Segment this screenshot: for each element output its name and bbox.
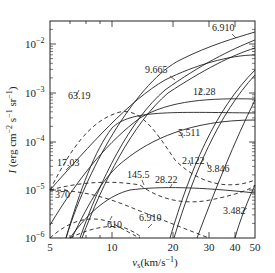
svg-text:10−4: 10−4 (25, 134, 45, 148)
svg-text:12.28: 12.28 (193, 86, 216, 97)
svg-text:63.19: 63.19 (68, 90, 91, 101)
svg-text:610: 610 (107, 219, 122, 230)
svg-text:28.22: 28.22 (155, 174, 178, 185)
svg-text:10−5: 10−5 (25, 182, 45, 196)
x-axis-label: vs(km/s−1) (132, 255, 178, 270)
line-chart: 5 10 20 30 40 50 10−6 10−5 10−4 10−3 10−… (0, 0, 275, 273)
svg-text:9.665: 9.665 (145, 64, 168, 75)
svg-text:2.122: 2.122 (182, 155, 205, 166)
y-axis-label: I (erg cm−2 s−1 sr−1) (5, 86, 19, 174)
svg-text:40: 40 (230, 241, 242, 253)
svg-text:370: 370 (55, 189, 70, 200)
svg-text:30: 30 (204, 241, 216, 253)
svg-text:10: 10 (107, 241, 119, 253)
svg-text:17.03: 17.03 (57, 157, 80, 168)
svg-text:10−6: 10−6 (25, 230, 45, 244)
svg-text:10−2: 10−2 (25, 36, 45, 50)
svg-text:3.482: 3.482 (223, 205, 246, 216)
svg-text:3.846: 3.846 (207, 163, 230, 174)
svg-text:6.910: 6.910 (139, 212, 162, 223)
y-tick-labels: 10−6 10−5 10−4 10−3 10−2 (25, 36, 45, 244)
x-tick-labels: 5 10 20 30 40 50 (47, 241, 261, 253)
svg-text:50: 50 (250, 241, 262, 253)
svg-text:6.910: 6.910 (212, 22, 235, 33)
svg-text:5.511: 5.511 (178, 127, 200, 138)
svg-text:145.5: 145.5 (127, 169, 150, 180)
svg-text:5: 5 (47, 241, 53, 253)
svg-text:10−3: 10−3 (25, 85, 45, 99)
svg-text:20: 20 (168, 241, 180, 253)
